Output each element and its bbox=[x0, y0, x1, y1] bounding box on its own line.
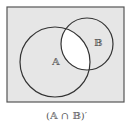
set-b-label: 𝔹 bbox=[94, 37, 102, 48]
set-a-label: 𝔸 bbox=[51, 56, 60, 67]
diagram-caption: (𝔸 ∩ 𝔹)′ bbox=[0, 110, 133, 121]
venn-diagram: 𝔸 𝔹 bbox=[0, 0, 133, 126]
